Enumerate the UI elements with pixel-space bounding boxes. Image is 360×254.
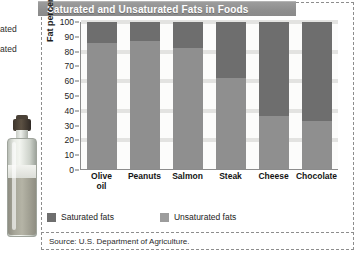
bar-segment-saturated bbox=[216, 22, 246, 78]
chart-legend: Saturated fats Unsaturated fats bbox=[47, 212, 236, 222]
x-axis-label: Salmon bbox=[166, 172, 209, 191]
y-tick-label: 100 bbox=[60, 17, 74, 27]
source-divider bbox=[41, 232, 354, 233]
bar-cheese[interactable] bbox=[259, 22, 289, 169]
y-tick-label: 80 bbox=[65, 47, 74, 57]
y-tick-label: 90 bbox=[65, 32, 74, 42]
plot-area bbox=[80, 22, 338, 170]
y-tick-mark bbox=[75, 81, 79, 82]
y-tick-label: 30 bbox=[65, 121, 74, 131]
legend-label-unsaturated: Unsaturated fats bbox=[174, 212, 236, 222]
y-tick-label: 0 bbox=[69, 165, 74, 175]
x-axis-label: Steak bbox=[209, 172, 252, 191]
cropped-legend-unsaturated: ated bbox=[0, 44, 17, 54]
bar-segment-unsaturated bbox=[302, 121, 332, 170]
bar-segment-unsaturated bbox=[87, 43, 117, 169]
bar-chocolate[interactable] bbox=[302, 22, 332, 169]
y-tick-mark bbox=[75, 96, 79, 97]
y-tick-label: 50 bbox=[65, 91, 74, 101]
fats-bar-chart: Fat percentage 1009080706050403020100 Ol… bbox=[47, 22, 347, 187]
bar-segment-unsaturated bbox=[259, 116, 289, 169]
y-axis-label: Fat percentage bbox=[45, 0, 55, 58]
x-axis-label: Oliveoil bbox=[80, 172, 123, 191]
x-axis-label: Peanuts bbox=[123, 172, 166, 191]
legend-swatch-unsaturated bbox=[160, 213, 169, 222]
y-tick-label: 70 bbox=[65, 61, 74, 71]
bottle-highlight bbox=[12, 142, 16, 230]
y-tick-label: 40 bbox=[65, 106, 74, 116]
bar-group bbox=[81, 22, 338, 169]
page-title: Saturated and Unsaturated Fats in Foods bbox=[38, 4, 248, 15]
y-tick-mark bbox=[75, 110, 79, 111]
bar-segment-unsaturated bbox=[130, 41, 160, 169]
bar-salmon[interactable] bbox=[173, 22, 203, 169]
legend-swatch-saturated bbox=[47, 213, 56, 222]
legend-item-unsaturated: Unsaturated fats bbox=[160, 212, 236, 222]
y-tick-mark bbox=[75, 51, 79, 52]
y-tick-label: 10 bbox=[65, 150, 74, 160]
bar-segment-saturated bbox=[87, 22, 117, 43]
y-tick-mark bbox=[75, 140, 79, 141]
bar-segment-saturated bbox=[130, 22, 160, 41]
cropped-legend-saturated: ated bbox=[0, 24, 17, 34]
y-tick-mark bbox=[75, 155, 79, 156]
title-banner: Saturated and Unsaturated Fats in Foods bbox=[38, 1, 296, 16]
bar-peanuts[interactable] bbox=[130, 22, 160, 169]
y-tick-label: 60 bbox=[65, 76, 74, 86]
bar-steak[interactable] bbox=[216, 22, 246, 169]
bar-segment-saturated bbox=[173, 22, 203, 48]
legend-item-saturated: Saturated fats bbox=[47, 212, 114, 222]
y-axis-ticks: 1009080706050403020100 bbox=[56, 22, 79, 170]
x-axis-label: Cheese bbox=[252, 172, 295, 191]
y-tick-mark bbox=[75, 66, 79, 67]
y-tick-label: 20 bbox=[65, 135, 74, 145]
y-tick-mark bbox=[75, 36, 79, 37]
oil-bottle-illustration bbox=[5, 115, 39, 237]
bar-segment-unsaturated bbox=[216, 78, 246, 169]
legend-label-saturated: Saturated fats bbox=[61, 212, 114, 222]
x-axis-label: Chocolate bbox=[295, 172, 338, 191]
y-tick-mark bbox=[75, 170, 79, 171]
y-tick-mark bbox=[75, 22, 79, 23]
bar-olive-oil[interactable] bbox=[87, 22, 117, 169]
source-note: Source: U.S. Department of Agriculture. bbox=[49, 237, 190, 246]
bar-segment-saturated bbox=[259, 22, 289, 116]
x-axis-labels: OliveoilPeanutsSalmonSteakCheeseChocolat… bbox=[80, 172, 338, 191]
y-tick-mark bbox=[75, 125, 79, 126]
bar-segment-unsaturated bbox=[173, 48, 203, 169]
bar-segment-saturated bbox=[302, 22, 332, 121]
